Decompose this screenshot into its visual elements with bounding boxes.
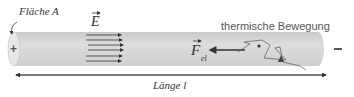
electron-icon	[257, 44, 260, 47]
plus-terminal: +	[10, 42, 17, 56]
minus-terminal	[334, 48, 342, 50]
field-label: E	[90, 13, 100, 29]
svg-text:el: el	[201, 54, 208, 63]
area-label: Fläche A	[18, 5, 59, 17]
svg-text:E: E	[90, 14, 100, 29]
length-label: Länge l	[152, 79, 186, 91]
conductor-diagram: + Fläche A E F el thermische Bewegung Lä…	[0, 0, 354, 97]
conductor-cylinder	[8, 32, 324, 66]
thermal-motion-label: thermische Bewegung	[221, 20, 330, 32]
svg-text:F: F	[190, 42, 201, 58]
